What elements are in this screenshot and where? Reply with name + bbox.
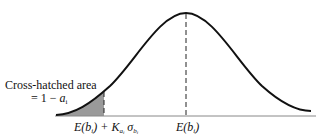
shaded-area-label-line1: Cross-hatched area bbox=[5, 78, 97, 92]
mean-label: E(bi) bbox=[175, 120, 199, 135]
shaded-area-label-line2: = 1 − ai bbox=[31, 91, 68, 106]
bell-curve bbox=[56, 13, 311, 115]
threshold-label: E(bi) + Kai σbi bbox=[73, 120, 139, 135]
normal-curve-diagram: Cross-hatched area = 1 − ai E(bi) + Kai … bbox=[0, 0, 323, 139]
